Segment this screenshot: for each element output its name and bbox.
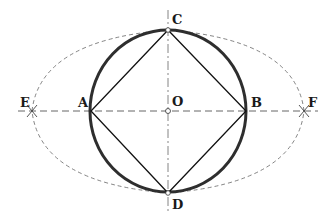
label-c: C — [172, 13, 182, 26]
point-marker-d — [166, 191, 171, 196]
geometry-drawing — [0, 0, 334, 220]
label-a: A — [78, 96, 88, 109]
arc-left-ced — [32, 30, 168, 193]
diagram-canvas: C D A B O E F — [0, 0, 334, 220]
point-marker-c — [166, 28, 171, 33]
label-e: E — [20, 96, 30, 109]
label-f: F — [308, 96, 317, 109]
label-d: D — [172, 198, 183, 211]
label-o: O — [172, 95, 183, 108]
point-marker-o — [166, 109, 171, 114]
arc-right-cfd — [168, 30, 304, 193]
label-b: B — [251, 96, 262, 109]
